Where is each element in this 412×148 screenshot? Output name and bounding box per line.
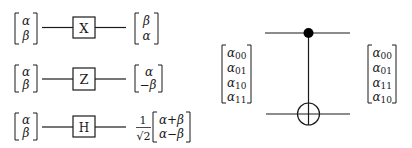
fraction-denominator: √2 bbox=[136, 130, 150, 143]
h-gate-row: α β H 1 √2 α+β α−β bbox=[15, 112, 190, 143]
vector-entry: β bbox=[22, 78, 30, 92]
vector-entry: α01 bbox=[227, 61, 247, 76]
right-bracket bbox=[154, 13, 158, 44]
input-vector: α00 α01 α10 α11 bbox=[222, 45, 251, 105]
right-bracket bbox=[247, 45, 251, 103]
vector-entry: α00 bbox=[227, 46, 247, 61]
output-vector: α −β bbox=[135, 65, 162, 92]
vector-entry: α10 bbox=[227, 76, 247, 91]
control-dot-icon bbox=[304, 28, 314, 38]
input-vector: α β bbox=[15, 13, 37, 44]
output-vector: α+β α−β bbox=[153, 112, 190, 142]
left-bracket bbox=[135, 65, 139, 92]
vector-entry: α bbox=[142, 29, 150, 43]
x-gate-row: α β X β α bbox=[15, 13, 158, 44]
quantum-gates-diagram: α β X β α α β Z α −β bbox=[0, 0, 412, 148]
vector-entry: −β bbox=[140, 78, 157, 92]
left-bracket bbox=[15, 13, 19, 44]
gate-label: H bbox=[79, 121, 89, 135]
vector-entry: α11 bbox=[227, 90, 247, 105]
left-bracket bbox=[135, 13, 139, 44]
vector-entry: α bbox=[22, 65, 30, 79]
vector-entry: α11 bbox=[373, 76, 393, 91]
right-bracket bbox=[33, 65, 37, 92]
vector-entry: α01 bbox=[373, 61, 393, 76]
gate-label: X bbox=[79, 21, 89, 36]
cnot-gate: α00 α01 α10 α11 α00 α01 α11 α10 bbox=[222, 28, 396, 125]
right-bracket bbox=[33, 13, 37, 44]
vector-entry: α+β bbox=[159, 113, 184, 127]
z-gate-row: α β Z α −β bbox=[15, 65, 162, 92]
vector-entry: β bbox=[142, 14, 150, 28]
right-bracket bbox=[158, 65, 162, 92]
left-bracket bbox=[222, 45, 226, 103]
input-vector: α β bbox=[15, 65, 37, 92]
left-bracket bbox=[368, 45, 372, 103]
gate-label: Z bbox=[79, 72, 88, 87]
vector-entry: α bbox=[22, 113, 30, 127]
vector-entry: α bbox=[22, 14, 30, 28]
output-vector: α00 α01 α11 α10 bbox=[368, 45, 396, 105]
output-vector: β α bbox=[135, 13, 158, 44]
right-bracket bbox=[186, 112, 190, 142]
input-vector: α β bbox=[15, 113, 37, 140]
vector-entry: α bbox=[145, 65, 153, 79]
left-bracket bbox=[153, 112, 157, 142]
left-bracket bbox=[15, 65, 19, 92]
left-bracket bbox=[15, 113, 19, 140]
normalization-factor: 1 √2 bbox=[136, 114, 151, 143]
vector-entry: α10 bbox=[373, 90, 393, 105]
right-bracket bbox=[33, 113, 37, 140]
vector-entry: β bbox=[22, 29, 30, 43]
fraction-numerator: 1 bbox=[140, 114, 147, 127]
right-bracket bbox=[392, 45, 396, 103]
vector-entry: β bbox=[22, 126, 30, 140]
vector-entry: α−β bbox=[159, 127, 184, 141]
vector-entry: α00 bbox=[373, 46, 393, 61]
